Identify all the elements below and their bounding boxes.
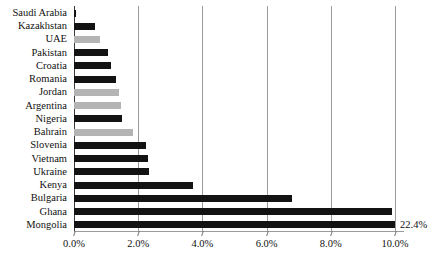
- bar: [74, 168, 149, 175]
- category-label: UAE: [45, 32, 67, 46]
- bar: [74, 155, 148, 162]
- bar-row: [74, 32, 395, 46]
- bar-row: [74, 205, 395, 219]
- category-axis-labels: Saudi ArabiaKazakhstanUAEPakistanCroatia…: [0, 6, 71, 231]
- bar: [74, 36, 100, 43]
- category-label: Slovenia: [30, 138, 67, 152]
- bar: [74, 23, 95, 30]
- bar-series: [74, 6, 395, 231]
- category-label: Kenya: [40, 178, 67, 192]
- bar-chart: Saudi ArabiaKazakhstanUAEPakistanCroatia…: [0, 0, 441, 270]
- category-label: Bulgaria: [31, 191, 67, 205]
- x-tick-label: 2.0%: [127, 238, 149, 249]
- bar-row: [74, 178, 395, 192]
- plot-area: [74, 6, 395, 231]
- x-tick-label: 8.0%: [320, 238, 342, 249]
- bar-row: [74, 6, 395, 20]
- bar-row: [74, 46, 395, 60]
- bar: [74, 89, 119, 96]
- category-label: Vietnam: [31, 152, 67, 166]
- bar-row: [74, 138, 395, 152]
- category-label: Argentina: [25, 99, 67, 113]
- bar-row: [74, 191, 395, 205]
- bar: [74, 142, 146, 149]
- bar-row: [74, 72, 395, 86]
- bar: [74, 208, 392, 215]
- bar-row: [74, 99, 395, 113]
- category-label: Croatia: [36, 59, 67, 73]
- bar-row: [74, 59, 395, 73]
- bar-row: [74, 19, 395, 33]
- bar-value-label: 22.4%: [400, 218, 427, 231]
- bar-row: [74, 85, 395, 99]
- x-tick-label: 10.0%: [381, 238, 408, 249]
- bar: [74, 221, 395, 228]
- category-label: Saudi Arabia: [12, 6, 67, 20]
- category-label: Nigeria: [36, 112, 68, 126]
- bar: [74, 102, 121, 109]
- category-label: Bahrain: [34, 125, 67, 139]
- x-tick-mark: [394, 231, 397, 236]
- x-tick-mark: [73, 231, 76, 236]
- x-tick-label: 0.0%: [63, 238, 85, 249]
- gridline: [395, 6, 396, 231]
- bar: [74, 115, 122, 122]
- bar-row: [74, 125, 395, 139]
- bar-row: [74, 165, 395, 179]
- category-label: Ukraine: [33, 165, 67, 179]
- category-label: Mongolia: [26, 218, 67, 232]
- category-label: Pakistan: [31, 46, 67, 60]
- bar: [74, 195, 292, 202]
- x-tick-label: 6.0%: [256, 238, 278, 249]
- category-label: Ghana: [40, 205, 67, 219]
- category-label: Romania: [29, 72, 67, 86]
- bar: [74, 62, 111, 69]
- bar: [74, 129, 133, 136]
- bar: [74, 49, 108, 56]
- x-tick-mark: [330, 231, 333, 236]
- category-label: Kazakhstan: [18, 19, 67, 33]
- bar: [74, 182, 193, 189]
- x-tick-label: 4.0%: [191, 238, 213, 249]
- bar: [74, 76, 116, 83]
- category-label: Jordan: [39, 85, 67, 99]
- bar-row: [74, 218, 395, 232]
- bar: [74, 10, 76, 17]
- bar-row: [74, 152, 395, 166]
- bar-row: [74, 112, 395, 126]
